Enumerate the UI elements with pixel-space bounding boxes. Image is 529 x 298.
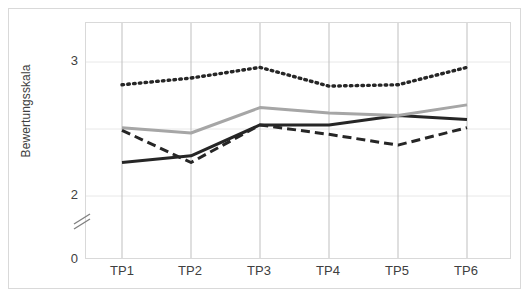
series-dotted (122, 67, 467, 86)
plot-canvas (0, 0, 529, 298)
axis-break-marker (74, 214, 90, 229)
chart-figure: Bewertungsskala 3 2 0 TP1 TP2 TP3 TP4 TP… (0, 0, 529, 298)
data-series-group (122, 67, 467, 162)
